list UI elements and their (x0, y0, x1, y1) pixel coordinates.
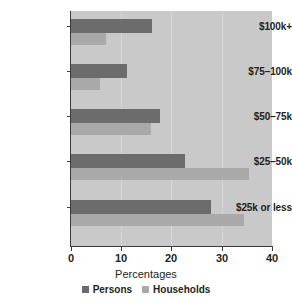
bar-persons-25-50k (71, 154, 185, 168)
y-tick-mark-25-50k (67, 161, 71, 162)
x-tick-label-0: 0 (56, 252, 86, 264)
legend-item-persons: Persons (82, 284, 132, 295)
y-tick-mark-75-100k (67, 71, 71, 72)
gridline-30 (222, 11, 223, 246)
bar-households-75-100k (71, 78, 100, 90)
legend-swatch-persons-icon (82, 286, 89, 293)
bar-persons-100k-plus (71, 19, 152, 33)
legend: Persons Households (0, 284, 292, 295)
y-category-label-75-100k: $75–100k (226, 66, 292, 77)
y-axis-line (70, 11, 71, 247)
x-tick-mark-0 (71, 247, 72, 251)
legend-label-persons: Persons (93, 284, 132, 295)
bar-chart: $100k+ $75–100k $50–75k $25–50k $25k or … (0, 0, 292, 303)
legend-item-households: Households (142, 284, 210, 295)
x-tick-label-20: 20 (156, 252, 186, 264)
x-tick-mark-20 (171, 247, 172, 251)
y-category-label-25k-or-less: $25k or less (226, 202, 292, 213)
x-tick-label-30: 30 (207, 252, 237, 264)
x-tick-label-10: 10 (106, 252, 136, 264)
bar-persons-25k-or-less (71, 200, 211, 214)
y-tick-mark-50-75k (67, 116, 71, 117)
y-category-label-100k-plus: $100k+ (226, 21, 292, 32)
legend-label-households: Households (153, 284, 210, 295)
x-axis-title: Percentages (0, 268, 292, 280)
x-tick-mark-10 (121, 247, 122, 251)
y-category-label-25-50k: $25–50k (226, 156, 292, 167)
y-tick-mark-25k-or-less (67, 207, 71, 208)
bar-households-25-50k (71, 168, 249, 180)
bar-households-25k-or-less (71, 214, 244, 226)
bar-persons-50-75k (71, 109, 160, 123)
bar-households-50-75k (71, 123, 151, 135)
y-category-label-50-75k: $50–75k (226, 111, 292, 122)
x-tick-label-40: 40 (257, 252, 287, 264)
legend-swatch-households-icon (142, 286, 149, 293)
bar-households-100k-plus (71, 33, 106, 45)
x-tick-mark-40 (272, 247, 273, 251)
x-tick-mark-30 (222, 247, 223, 251)
y-tick-mark-100k-plus (67, 26, 71, 27)
bar-persons-75-100k (71, 64, 127, 78)
